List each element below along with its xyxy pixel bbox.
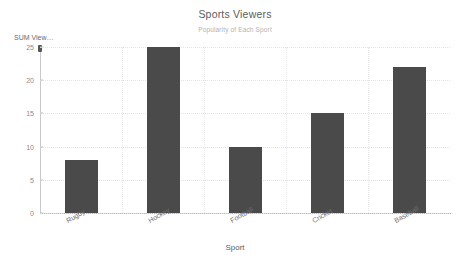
category-separator bbox=[368, 47, 369, 213]
plot-area bbox=[40, 47, 450, 213]
y-axis-tick-mark bbox=[40, 213, 43, 214]
gridline bbox=[40, 80, 450, 81]
y-axis-tick-labels: 0510152025 bbox=[0, 0, 34, 264]
category-separator bbox=[204, 47, 205, 213]
gridline bbox=[40, 47, 450, 48]
y-axis-tick-label: 10 bbox=[26, 143, 34, 150]
bar[interactable] bbox=[229, 147, 262, 213]
y-axis-tick-mark bbox=[40, 113, 43, 114]
category-separator bbox=[286, 47, 287, 213]
y-axis-tick-mark bbox=[40, 80, 43, 81]
y-axis-tick-label: 25 bbox=[26, 44, 34, 51]
y-axis-tick-label: 20 bbox=[26, 77, 34, 84]
bar[interactable] bbox=[393, 67, 426, 213]
bar[interactable] bbox=[65, 160, 98, 213]
category-separator bbox=[122, 47, 123, 213]
y-axis-tick-mark bbox=[40, 146, 43, 147]
y-axis-tick-label: 0 bbox=[30, 210, 34, 217]
y-axis-tick-mark bbox=[40, 47, 43, 48]
chart-subtitle: Popularity of Each Sport bbox=[0, 26, 470, 33]
gridline bbox=[40, 113, 450, 114]
y-axis-tick-label: 5 bbox=[30, 176, 34, 183]
x-axis-title: Sport bbox=[0, 243, 470, 252]
bar[interactable] bbox=[147, 47, 180, 213]
bar-chart: Sports Viewers Popularity of Each Sport … bbox=[0, 0, 470, 264]
y-axis-tick-label: 15 bbox=[26, 110, 34, 117]
y-axis-tick-mark bbox=[40, 179, 43, 180]
chart-title: Sports Viewers bbox=[0, 8, 470, 20]
bar[interactable] bbox=[311, 113, 344, 213]
